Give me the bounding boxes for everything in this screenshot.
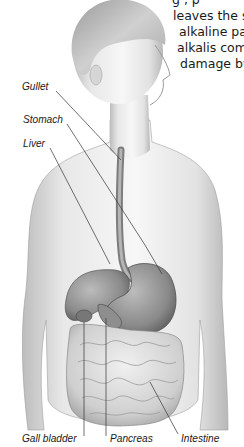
label-intestine: Intestine: [181, 432, 219, 444]
text-line: damage by: [180, 56, 244, 71]
label-pancreas: Pancreas: [110, 432, 153, 444]
label-gullet: Gullet: [22, 80, 48, 92]
text-line: leaves the s: [173, 8, 244, 23]
text-line: alkalis com: [177, 40, 244, 55]
text-line: alkaline pa: [179, 24, 244, 39]
text-line: g , p: [172, 0, 200, 7]
label-liver: Liver: [23, 137, 45, 149]
label-stomach: Stomach: [23, 113, 63, 125]
label-gall-bladder: Gall bladder: [22, 432, 77, 444]
